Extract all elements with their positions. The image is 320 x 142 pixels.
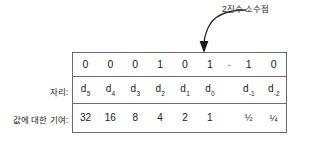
place-cell: d0 xyxy=(197,84,222,97)
bit-cell: 0 xyxy=(173,59,198,70)
weight-cell: 2 xyxy=(173,113,198,123)
place-base: d xyxy=(205,83,211,94)
place-base: d xyxy=(268,83,274,94)
callout-arrow-icon xyxy=(186,8,248,54)
place-cell: d5 xyxy=(73,84,98,97)
place-subscript: 1 xyxy=(186,90,190,97)
bit-cell: 1 xyxy=(197,59,222,70)
place-subscript: 0 xyxy=(211,90,215,97)
weight-cell: 4 xyxy=(148,113,173,123)
place-subscript: 5 xyxy=(87,90,91,97)
place-cell: d-2 xyxy=(261,84,286,97)
place-subscript: 3 xyxy=(136,90,140,97)
bit-cell: 1 xyxy=(148,59,173,70)
bit-cell: 0 xyxy=(261,59,286,70)
weight-cell: 1 xyxy=(197,113,222,123)
place-subscript: 4 xyxy=(112,90,116,97)
weight-cell: 16 xyxy=(98,113,123,123)
place-cell: d-1 xyxy=(236,84,261,97)
table-row-bits: 0 0 0 1 0 1 . 1 0 xyxy=(73,53,286,77)
row-label-weight: 값에 대한 기여: xyxy=(13,116,68,125)
weight-cell: 32 xyxy=(73,113,98,123)
place-base: d xyxy=(81,83,87,94)
place-cell: d3 xyxy=(123,84,148,97)
weight-cell: ¼ xyxy=(261,113,286,123)
place-cell: d2 xyxy=(148,84,173,97)
weight-cell: ½ xyxy=(236,113,261,123)
place-base: d xyxy=(106,83,112,94)
place-subscript: -2 xyxy=(274,90,280,97)
place-subscript: 2 xyxy=(161,90,165,97)
binary-point: . xyxy=(222,58,236,71)
bit-cell: 0 xyxy=(73,59,98,70)
binary-place-value-figure: 2진수 소수점 자리: 값에 대한 기여: 0 0 0 1 0 1 . 1 0 … xyxy=(0,0,320,142)
place-base: d xyxy=(243,83,249,94)
bit-cell: 0 xyxy=(123,59,148,70)
place-subscript: -1 xyxy=(249,90,255,97)
row-label-place: 자리: xyxy=(50,88,68,97)
bit-table: 0 0 0 1 0 1 . 1 0 d5 d4 d3 d2 d1 d0 d-1 … xyxy=(72,52,287,133)
bit-cell: 0 xyxy=(98,59,123,70)
place-cell: d1 xyxy=(173,84,198,97)
weight-cell: 8 xyxy=(123,113,148,123)
bit-cell: 1 xyxy=(236,59,261,70)
table-row-place: d5 d4 d3 d2 d1 d0 d-1 d-2 xyxy=(73,77,286,104)
row-labels: 자리: 값에 대한 기여: xyxy=(0,52,68,133)
place-cell: d4 xyxy=(98,84,123,97)
table-row-weight: 32 16 8 4 2 1 ½ ¼ xyxy=(73,104,286,132)
